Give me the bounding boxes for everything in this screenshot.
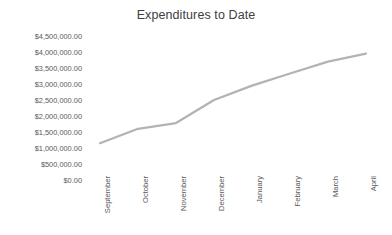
y-axis: $0.00$500,000.00$1,000,000.00$1,500,000.… bbox=[0, 36, 86, 180]
y-axis-tick-label: $3,000,000.00 bbox=[0, 80, 82, 89]
chart-title: Expenditures to Date bbox=[0, 8, 392, 22]
y-axis-tick-label: $4,000,000.00 bbox=[0, 48, 82, 57]
x-axis-tick-label: January bbox=[255, 176, 264, 203]
expenditures-line bbox=[100, 54, 366, 144]
y-axis-tick-label: $1,000,000.00 bbox=[0, 144, 82, 153]
y-axis-tick-label: $3,500,000.00 bbox=[0, 64, 82, 73]
x-axis-tick-label: November bbox=[179, 176, 188, 211]
x-axis-tick-label: December bbox=[217, 176, 226, 211]
chart-container: Expenditures to Date $0.00$500,000.00$1,… bbox=[0, 0, 392, 235]
y-axis-tick-label: $4,500,000.00 bbox=[0, 32, 82, 41]
y-axis-tick-label: $2,000,000.00 bbox=[0, 112, 82, 121]
x-axis-tick-label: April bbox=[369, 176, 378, 191]
y-axis-tick-label: $1,500,000.00 bbox=[0, 128, 82, 137]
x-axis-tick-label: March bbox=[331, 176, 340, 197]
x-axis-tick-label: February bbox=[293, 176, 302, 206]
y-axis-tick-label: $500,000.00 bbox=[0, 160, 82, 169]
y-axis-tick-label: $2,500,000.00 bbox=[0, 96, 82, 105]
x-axis: SeptemberOctoberNovemberDecemberJanuaryF… bbox=[0, 176, 392, 235]
line-series-svg bbox=[88, 36, 392, 180]
plot-area bbox=[88, 36, 392, 180]
x-axis-tick-label: October bbox=[141, 176, 150, 203]
x-axis-tick-label: September bbox=[103, 176, 112, 213]
